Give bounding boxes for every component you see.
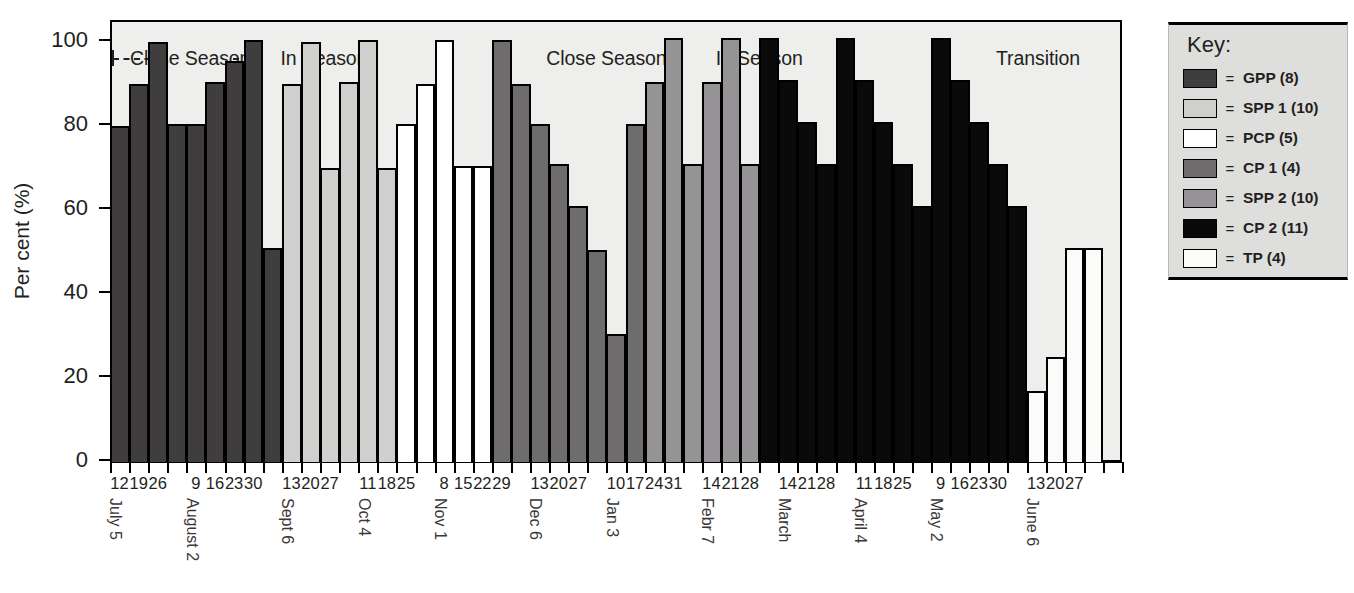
x-tick-mark [568,462,570,473]
y-tick-mark [99,39,110,41]
legend-item: =CP 1 (4) [1183,157,1300,179]
x-tick-mark [129,462,131,473]
x-tick-label: 21 [798,474,816,493]
x-month-label: June 6 [1023,498,1041,546]
legend-label: PCP (5) [1243,129,1298,147]
bar [454,166,474,462]
bar [759,38,779,462]
bar [205,82,225,462]
x-tick-mark [148,462,150,473]
legend-item: =CP 2 (11) [1183,217,1308,239]
bar [606,334,626,462]
legend-equals-sign: = [1217,190,1243,207]
x-tick-label: 21 [721,474,739,493]
x-tick-mark [435,462,437,473]
y-tick-mark [99,123,110,125]
x-tick-label: 29 [492,474,510,493]
x-tick-label: 25 [893,474,911,493]
bar [244,40,264,462]
x-tick-label: 19 [129,474,147,493]
x-tick-label: 30 [989,474,1007,493]
x-tick-mark [778,462,780,473]
bar [225,61,245,462]
bar [358,40,378,462]
legend-item: =PCP (5) [1183,127,1298,149]
x-tick-label: 13 [1027,474,1045,493]
x-tick-mark [836,462,838,473]
x-tick-mark [683,462,685,473]
x-tick-mark [492,462,494,473]
x-tick-mark [702,462,704,473]
x-month-label: April 4 [851,498,869,543]
x-tick-mark [416,462,418,473]
bar [721,38,741,462]
y-tick-label: 20 [36,363,88,389]
legend-label: TP (4) [1243,249,1286,267]
x-tick-mark [893,462,895,473]
x-tick-mark [931,462,933,473]
season-label: Transition [996,47,1080,70]
bar [912,206,932,462]
legend-item: =SPP 1 (10) [1183,97,1319,119]
bar [396,124,416,462]
y-tick-label: 60 [36,195,88,221]
x-tick-mark [205,462,207,473]
bar [339,82,359,462]
legend-item: =GPP (8) [1183,67,1299,89]
x-tick-label: 27 [320,474,338,493]
legend-equals-sign: = [1217,100,1243,117]
x-tick-mark [110,462,112,473]
y-axis: Per cent (%) 020406080100 [0,0,110,593]
legend-label: CP 2 (11) [1243,219,1308,237]
x-tick-mark [530,462,532,473]
bar [1065,248,1085,462]
x-tick-mark [1007,462,1009,473]
bar [988,164,1008,462]
x-tick-mark [1046,462,1048,473]
x-tick-mark [740,462,742,473]
bar [435,40,455,462]
legend-label: GPP (8) [1243,69,1299,87]
bar [549,164,569,462]
season-label: Close Season [546,47,666,70]
y-axis-title: Per cent (%) [10,121,34,361]
legend-label: SPP 1 (10) [1243,99,1319,117]
x-tick-label: 24 [645,474,663,493]
bar [702,82,722,462]
y-tick-label: 40 [36,279,88,305]
x-tick-label: 16 [206,474,224,493]
bar [816,164,836,462]
x-tick-mark [263,462,265,473]
x-month-label: Sept 6 [278,498,296,544]
x-tick-label: 31 [664,474,682,493]
x-tick-mark [396,462,398,473]
x-tick-label: 18 [378,474,396,493]
legend-equals-sign: = [1217,70,1243,87]
x-tick-mark [855,462,857,473]
x-month-label: March [775,498,793,542]
bar [110,126,130,462]
x-tick-label: 27 [1065,474,1083,493]
legend-swatch [1183,159,1217,178]
x-tick-mark [186,462,188,473]
bar [683,164,703,462]
x-tick-label: 12 [110,474,128,493]
x-tick-label: 27 [569,474,587,493]
legend-title: Key: [1187,32,1231,58]
legend-swatch [1183,99,1217,118]
x-tick-mark [282,462,284,473]
x-tick-mark [664,462,666,473]
x-month-label: July 5 [106,498,124,540]
y-tick-mark [99,459,110,461]
bar [301,42,321,462]
x-tick-mark [244,462,246,473]
x-tick-label: 25 [397,474,415,493]
legend-item: =SPP 2 (10) [1183,187,1319,209]
y-tick-label: 100 [36,27,88,53]
bar [969,122,989,462]
x-tick-label: 14 [702,474,720,493]
x-tick-label: 11 [856,474,873,493]
x-tick-label: 9 [191,474,200,493]
x-tick-mark [511,462,513,473]
bar [473,166,493,462]
